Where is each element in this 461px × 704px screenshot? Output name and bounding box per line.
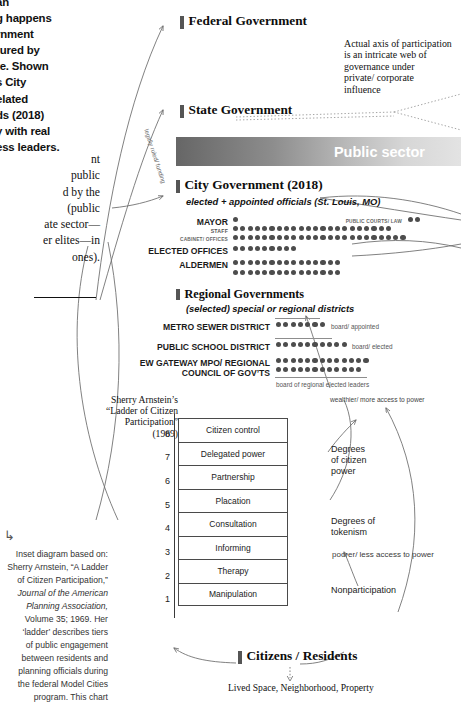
row-label-staff: STAFF	[178, 228, 228, 234]
dot	[349, 367, 354, 372]
dot	[312, 358, 317, 363]
dot	[283, 367, 288, 372]
dot	[284, 270, 289, 275]
section-citizens-residents: Citizens / Residents	[238, 649, 357, 664]
dot-row-public-school	[276, 342, 349, 347]
dot	[328, 235, 333, 240]
dot	[255, 260, 260, 265]
dot	[305, 358, 310, 363]
dot	[312, 367, 317, 372]
dot	[240, 260, 245, 265]
ladder-number-7: 7	[158, 452, 170, 462]
inset-caption-part2: Volume 35; 1969. Her ‘ladder’ describes …	[0, 613, 108, 704]
section-bar	[176, 289, 180, 300]
dot	[327, 358, 332, 363]
dot	[276, 358, 281, 363]
section-state-government: State Government	[180, 103, 292, 118]
dot	[350, 226, 355, 231]
dot	[379, 235, 384, 240]
section-regional-governments: Regional Governments	[176, 287, 304, 301]
ladder-number-6: 6	[158, 476, 170, 486]
dot	[313, 235, 318, 240]
dot	[277, 226, 282, 231]
dot	[306, 226, 311, 231]
ladder-rung-placation: Placation	[178, 489, 288, 513]
dot	[233, 235, 238, 240]
dot	[335, 226, 340, 231]
note-metro-sewer: board/ appointed	[331, 323, 379, 330]
section-city-label: City Government (2018)	[185, 178, 323, 192]
dot	[328, 226, 333, 231]
dot	[305, 322, 310, 327]
dot	[276, 342, 281, 347]
dot	[386, 235, 391, 240]
dot-row-aldermen-1	[233, 260, 342, 265]
dot	[248, 235, 253, 240]
dot	[277, 235, 282, 240]
dot	[240, 226, 245, 231]
dot	[327, 342, 332, 347]
ladder-rung-consultation: Consultation	[178, 512, 288, 536]
dot	[298, 322, 303, 327]
dot	[334, 358, 339, 363]
ladder-number-3: 3	[158, 547, 170, 557]
dot	[269, 235, 274, 240]
dot	[233, 226, 238, 231]
section-state-label: State Government	[189, 103, 293, 117]
dot	[349, 358, 354, 363]
dot-row-metro-sewer	[276, 322, 327, 327]
dot	[262, 260, 267, 265]
dot	[255, 246, 260, 251]
dot	[262, 226, 267, 231]
dot	[335, 235, 340, 240]
ladder-spine	[174, 414, 175, 618]
section-bar	[238, 651, 242, 664]
dot	[299, 226, 304, 231]
section-regional-label: Regional Governments	[185, 287, 305, 301]
legally-ruled-rotated-label: legally ruled/ funding	[143, 128, 167, 184]
note-wealthier-access: wealthier/ more access to power	[330, 396, 425, 403]
ladder-number-4: 4	[158, 523, 170, 533]
ladder-rung-manipulation: Manipulation	[178, 583, 288, 607]
dot-row-elected-offices	[233, 246, 299, 251]
dot	[357, 235, 362, 240]
dot	[320, 322, 325, 327]
actual-axis-annotation: Actual axis of participation is an intri…	[344, 38, 461, 95]
dot-row-cabinet-offices	[233, 235, 408, 240]
dot	[342, 226, 347, 231]
note-poorer-access: poorer/ less access to power	[332, 550, 434, 559]
dot	[400, 235, 405, 240]
dot	[269, 270, 274, 275]
section-city-government: City Government (2018)	[176, 178, 323, 193]
ladder-number-1: 1	[158, 594, 170, 604]
section-citizens-label: Citizens / Residents	[247, 649, 358, 663]
dot	[415, 217, 420, 222]
dot	[364, 235, 369, 240]
dot	[291, 260, 296, 265]
ladder-rung-partnership: Partnership	[178, 465, 288, 489]
dot	[298, 367, 303, 372]
dot	[233, 260, 238, 265]
dot	[306, 270, 311, 275]
dot	[364, 226, 369, 231]
dot	[240, 246, 245, 251]
left-divider-rule	[34, 297, 96, 298]
row-label-cabinet-offices: CABINET/ OFFICES	[162, 237, 228, 242]
dot	[233, 246, 238, 251]
group-nonparticipation: Nonparticipation	[331, 585, 396, 596]
metro-sewer-bracket	[275, 318, 320, 319]
section-federal-government: Federal Government	[180, 14, 307, 29]
dot	[291, 226, 296, 231]
ladder-rung-citizen-control: Citizen control	[178, 418, 288, 442]
city-government-subhead: elected + appointed officials (St. Louis…	[186, 196, 380, 207]
dot	[269, 246, 274, 251]
dot	[284, 260, 289, 265]
dot	[277, 246, 282, 251]
dot-row-aldermen-2	[233, 270, 342, 275]
dot	[291, 270, 296, 275]
dot	[320, 226, 325, 231]
dot	[291, 322, 296, 327]
down-right-arrow-icon: ↳	[4, 528, 15, 543]
dot	[320, 260, 325, 265]
dot	[284, 246, 289, 251]
